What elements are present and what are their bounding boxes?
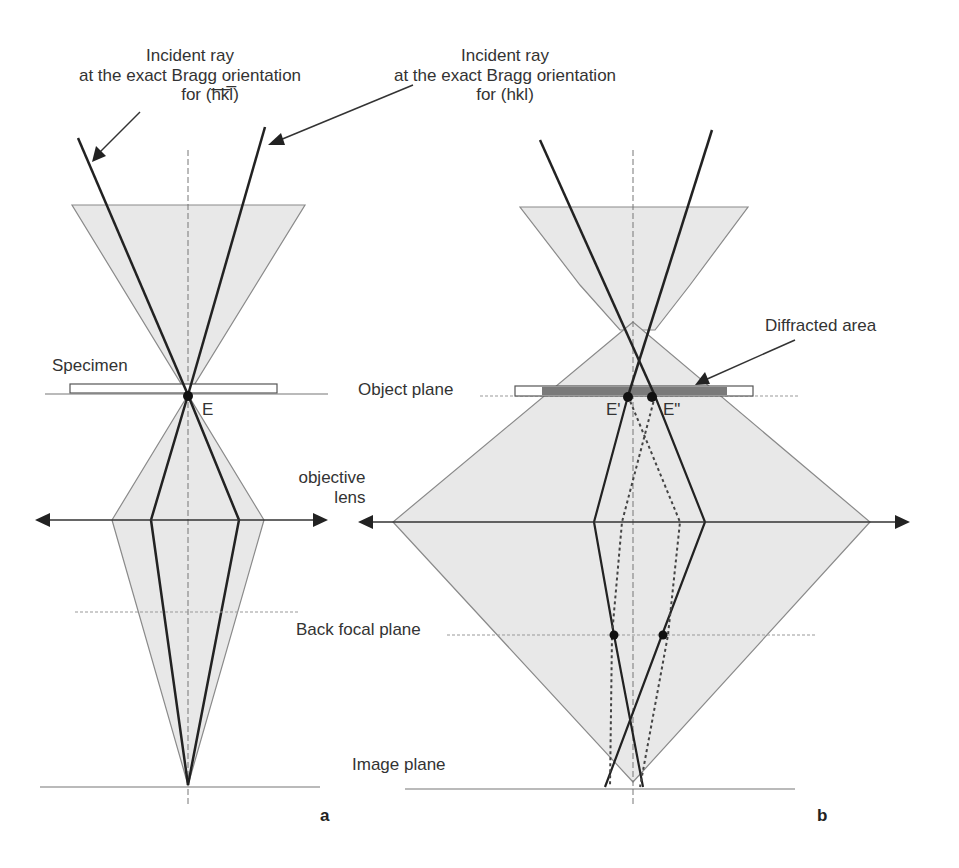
incident-ray-label-a: Incident ray at the exact Bragg orientat…: [79, 46, 301, 105]
specimen-plate: [70, 384, 277, 393]
diffracted-area-band: [542, 387, 727, 395]
panel-label-b: b: [817, 806, 827, 826]
object-plane-label: Object plane: [358, 380, 453, 400]
incident-ray-b-line3: for (hkl): [394, 85, 616, 105]
incident-ray-label-b: Incident ray at the exact Bragg orientat…: [394, 46, 616, 105]
point-e-double-prime-label: E": [663, 400, 680, 420]
incident-ray-b-line2: at the exact Bragg orientation: [394, 66, 616, 86]
diffraction-diagram: Incident ray at the exact Bragg orientat…: [0, 0, 959, 868]
incident-ray-a-line3: for (h̅k̅l̅): [79, 85, 301, 105]
objective-lens-label: objective lens: [298, 468, 365, 507]
specimen-label: Specimen: [52, 356, 128, 376]
point-e-double-prime: [647, 392, 657, 402]
ray-diagram-svg: [0, 0, 959, 868]
panel-label-a: a: [320, 806, 329, 826]
point-e-label: E: [202, 400, 213, 420]
incident-ray-a-line2: at the exact Bragg orientation: [79, 66, 301, 86]
point-e-prime-label: E': [606, 400, 621, 420]
incident-ray-b-line1: Incident ray: [394, 46, 616, 66]
objective-lens-line1: objective: [298, 468, 365, 488]
back-focal-plane-label: Back focal plane: [296, 620, 421, 640]
illumination-cone-b: [520, 207, 748, 330]
diffracted-area-label: Diffracted area: [765, 316, 876, 336]
objective-lens-line2: lens: [298, 488, 365, 508]
point-e: [183, 391, 193, 401]
point-e-prime: [623, 392, 633, 402]
incident-ray-a-line1: Incident ray: [79, 46, 301, 66]
image-plane-label: Image plane: [352, 755, 446, 775]
